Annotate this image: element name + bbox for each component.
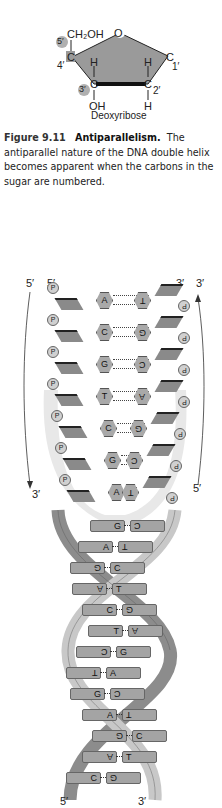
helix-base-left: G bbox=[90, 520, 125, 532]
helix-base-right: T bbox=[122, 751, 157, 763]
phosphate-right: P bbox=[166, 492, 178, 504]
phosphate-left: P bbox=[47, 314, 59, 326]
helix-base-right: G bbox=[116, 646, 151, 658]
sugar-name: Deoxyribose bbox=[91, 110, 147, 121]
c1-label: 1′ bbox=[172, 61, 179, 72]
helix-base-left: A bbox=[72, 583, 107, 595]
dna-helix-icon bbox=[0, 270, 222, 808]
helix-base-left: A bbox=[82, 709, 117, 721]
helix-bottom-5prime: 5′ bbox=[60, 795, 68, 807]
phosphate-right: P bbox=[174, 428, 186, 440]
right-outer-5prime: 5′ bbox=[193, 482, 201, 494]
helix-bottom-3prime: 3′ bbox=[138, 795, 146, 807]
helix-base-left: T bbox=[66, 667, 101, 679]
helix-base-left: G bbox=[70, 562, 105, 574]
helix-base-right: A bbox=[128, 625, 163, 637]
phosphate-right: P bbox=[178, 300, 190, 312]
helix-base-left: T bbox=[88, 625, 123, 637]
figure-caption: Figure 9.11 Antiparallelism. The antipar… bbox=[4, 131, 220, 189]
left-outer-3prime: 3′ bbox=[32, 488, 40, 500]
helix-base-right: G bbox=[106, 772, 141, 784]
c3-carbon: C bbox=[90, 78, 98, 90]
h-left-label: H bbox=[90, 56, 98, 68]
phosphate-right: P bbox=[170, 460, 182, 472]
right-outer-3prime: 3′ bbox=[196, 277, 204, 289]
helix-base-right: A bbox=[106, 667, 141, 679]
helix-base-right: T bbox=[122, 709, 157, 721]
phosphate-right: P bbox=[178, 364, 190, 376]
phosphate-right: P bbox=[178, 332, 190, 344]
helix-base-left: C bbox=[82, 604, 117, 616]
c3-marker: 3′ bbox=[79, 84, 86, 94]
left-outer-5prime: 5′ bbox=[26, 277, 34, 289]
dna-illustration: 5′ 5′ 3′ 3′ 3′ 5′ PATPPCGPPGCPPTAPPCGPPG… bbox=[0, 270, 222, 808]
c4-label: 4′ bbox=[57, 60, 64, 71]
phosphate-left: P bbox=[47, 378, 59, 390]
h-right-label: H bbox=[144, 56, 152, 68]
c5-marker: 5′ bbox=[57, 36, 64, 46]
phosphate-left: P bbox=[59, 474, 71, 486]
figure-number: Figure 9.11 bbox=[4, 132, 66, 143]
helix-base-left: C bbox=[76, 646, 111, 658]
ch2oh-label: CH₂OH bbox=[67, 28, 104, 40]
phosphate-left: P bbox=[55, 442, 67, 454]
phosphate-right: P bbox=[178, 396, 190, 408]
phosphate-left: P bbox=[51, 410, 63, 422]
c2-carbon: C bbox=[144, 78, 152, 90]
helix-base-right: T bbox=[118, 541, 153, 553]
helix-base-right: T bbox=[112, 583, 147, 595]
phosphate-left: P bbox=[47, 282, 59, 294]
phosphate-left: P bbox=[47, 346, 59, 358]
ring-oxygen-label: O bbox=[114, 27, 123, 39]
figure-title: Antiparallelism. bbox=[75, 132, 161, 143]
helix-base-left: G bbox=[70, 688, 105, 700]
helix-base-right: C bbox=[110, 688, 145, 700]
helix-base-right: C bbox=[110, 562, 145, 574]
helix-base-right: C bbox=[130, 520, 165, 532]
deoxyribose-diagram: O CH₂OH 5′ C 4′ C 1′ H H C C 2′ 3′ OH H … bbox=[0, 0, 222, 120]
helix-base-left: C bbox=[66, 772, 101, 784]
c2-label: 2′ bbox=[153, 85, 160, 96]
helix-base-right: G bbox=[122, 604, 157, 616]
helix-base-left: A bbox=[82, 751, 117, 763]
c4-carbon: C bbox=[67, 51, 75, 63]
helix-base-right: C bbox=[132, 730, 167, 742]
deoxyribose-ring-icon bbox=[0, 0, 222, 120]
helix-base-left: G bbox=[92, 730, 127, 742]
helix-base-left: A bbox=[78, 541, 113, 553]
